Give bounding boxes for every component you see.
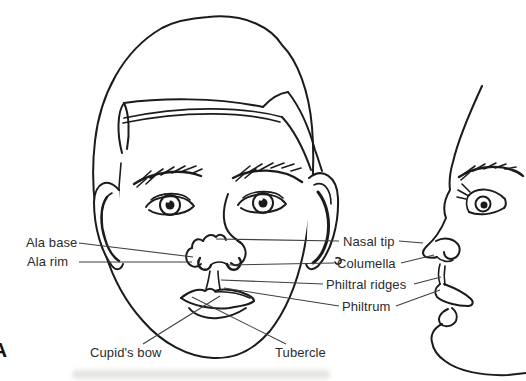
label-tubercle: Tubercle	[275, 346, 326, 360]
profile-outline	[423, 86, 482, 258]
profile-chin-jaw	[431, 324, 526, 375]
profile-eyebrow	[459, 163, 523, 180]
philtral-ridges-leader-line-right	[414, 277, 441, 284]
profile-eye	[457, 184, 506, 214]
profile-philtrum	[439, 264, 446, 285]
profile-pupil	[481, 202, 488, 209]
philtrum-leader-line-right	[396, 290, 440, 306]
label-cupids-bow: Cupid's bow	[90, 346, 162, 360]
label-ala-base: Ala base	[26, 236, 77, 250]
profile-face-drawing	[423, 86, 526, 375]
label-philtral-ridges: Philtral ridges	[326, 278, 406, 292]
label-ala-rim: Ala rim	[27, 255, 68, 269]
label-columella: Columella	[337, 257, 396, 271]
columella-leader-line-right	[401, 255, 434, 263]
face-diagram-art	[0, 0, 526, 381]
anatomy-figure-panel: Ala base Ala rim Nasal tip Columella Phi…	[0, 0, 526, 381]
label-nasal-tip: Nasal tip	[343, 235, 394, 249]
panel-letter: A	[0, 339, 7, 361]
label-philtrum: Philtrum	[342, 300, 390, 314]
profile-upper-lip	[435, 284, 472, 306]
profile-ala	[436, 239, 460, 259]
scan-artifact	[72, 370, 330, 379]
front-face-drawing	[93, 16, 341, 358]
left-ear	[94, 183, 123, 269]
right-ear	[306, 173, 341, 269]
nasal-tip-leader-line-right	[399, 241, 423, 243]
